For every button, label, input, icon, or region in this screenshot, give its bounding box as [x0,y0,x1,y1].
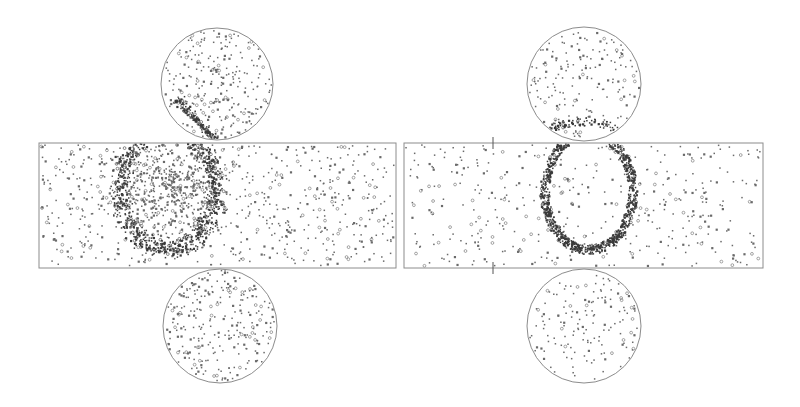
right-barrel-outline [404,143,763,268]
left-hit-markers [40,30,395,381]
left-bottom-endcap-outline [163,269,277,383]
left-top-endcap-outline [161,28,273,140]
right-hit-markers [405,32,760,380]
event-display-canvas [0,0,800,407]
right-bottom-endcap-outline [527,269,641,383]
left-event-display [39,28,396,383]
right-event-display [404,27,763,383]
event-display-figure [0,0,800,407]
